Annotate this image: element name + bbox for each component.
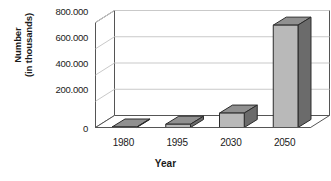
x-axis-title: Year (0, 158, 331, 169)
plot-area (0, 0, 331, 181)
x-axis-tick-label: 1980 (113, 137, 134, 148)
x-axis-tick-label: 2030 (220, 137, 241, 148)
x-axis-tick-label: 2050 (274, 137, 295, 148)
x-axis-tick-labels: 1980199520302050 (0, 137, 331, 153)
bar-chart: Number (in thousands) 0200.000400.000600… (0, 0, 331, 181)
x-axis-tick-label: 1995 (166, 137, 187, 148)
